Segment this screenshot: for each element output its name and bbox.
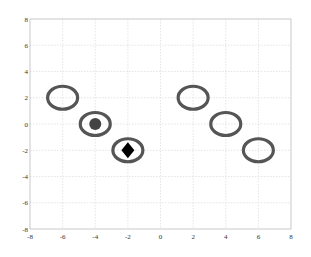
y-tick-label: 0 [25,121,29,129]
y-axis-ticks: 86420-2-4-6-8 [22,16,28,234]
grid-lines [30,19,291,229]
x-tick-label: -8 [27,233,33,241]
y-tick-label: 2 [25,94,29,102]
y-tick-label: 4 [25,68,29,76]
y-tick-label: -6 [22,199,28,207]
x-tick-label: 6 [257,233,261,241]
x-tick-label: 2 [191,233,195,241]
x-axis-ticks: -8-6-4-202468 [27,233,293,241]
filled-circle-marker [89,118,101,130]
x-tick-label: 4 [224,233,228,241]
y-tick-label: -2 [22,147,28,155]
x-tick-label: -4 [92,233,98,241]
y-tick-label: 6 [25,42,29,50]
x-tick-label: 0 [159,233,163,241]
x-tick-label: 8 [289,233,293,241]
scatter-chart: -8-6-4-202468 86420-2-4-6-8 [0,0,311,257]
y-tick-label: 8 [25,16,29,24]
x-tick-label: -2 [125,233,131,241]
x-tick-label: -6 [60,233,66,241]
y-tick-label: -4 [22,173,28,181]
y-tick-label: -8 [22,226,28,234]
diamond-marker [121,142,134,158]
